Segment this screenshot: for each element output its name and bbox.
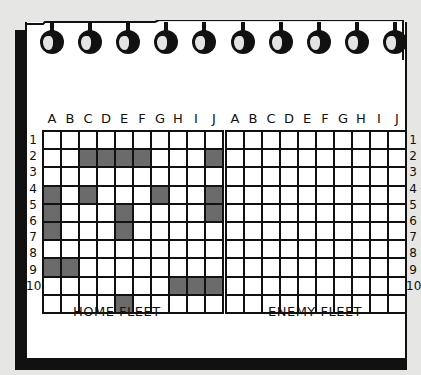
grid-cell-i4[interactable] bbox=[371, 187, 387, 203]
grid-cell-f8[interactable] bbox=[317, 259, 333, 275]
grid-cell-d6[interactable] bbox=[281, 223, 297, 239]
grid-cell-g1[interactable] bbox=[152, 132, 168, 148]
grid-cell-d9[interactable] bbox=[281, 278, 297, 294]
grid-cell-f5[interactable] bbox=[317, 205, 333, 221]
grid-cell-d1[interactable] bbox=[281, 132, 297, 148]
grid-cell-h2[interactable] bbox=[353, 150, 369, 166]
grid-cell-e4[interactable] bbox=[299, 187, 315, 203]
grid-cell-c2[interactable] bbox=[263, 150, 279, 166]
grid-cell-j6[interactable] bbox=[206, 223, 222, 239]
grid-cell-i1[interactable] bbox=[188, 132, 204, 148]
grid-cell-a8[interactable] bbox=[227, 259, 243, 275]
grid-cell-e5[interactable] bbox=[299, 205, 315, 221]
grid-cell-a1[interactable] bbox=[44, 132, 60, 148]
grid-cell-d4[interactable] bbox=[98, 187, 114, 203]
ship-cell-f2[interactable] bbox=[134, 150, 150, 166]
grid-cell-g7[interactable] bbox=[335, 241, 351, 257]
grid-cell-e9[interactable] bbox=[299, 278, 315, 294]
grid-cell-g3[interactable] bbox=[152, 168, 168, 184]
grid-cell-f4[interactable] bbox=[317, 187, 333, 203]
grid-cell-d7[interactable] bbox=[98, 241, 114, 257]
grid-cell-a9[interactable] bbox=[44, 278, 60, 294]
grid-cell-b4[interactable] bbox=[62, 187, 78, 203]
grid-cell-i10[interactable] bbox=[188, 296, 204, 312]
grid-cell-j1[interactable] bbox=[389, 132, 405, 148]
grid-cell-h2[interactable] bbox=[170, 150, 186, 166]
grid-cell-f3[interactable] bbox=[317, 168, 333, 184]
grid-cell-h9[interactable] bbox=[353, 278, 369, 294]
grid-cell-h1[interactable] bbox=[353, 132, 369, 148]
ship-cell-a5[interactable] bbox=[44, 205, 60, 221]
grid-cell-b5[interactable] bbox=[245, 205, 261, 221]
grid-cell-i8[interactable] bbox=[188, 259, 204, 275]
grid-cell-i6[interactable] bbox=[371, 223, 387, 239]
grid-cell-i8[interactable] bbox=[371, 259, 387, 275]
grid-cell-j3[interactable] bbox=[206, 168, 222, 184]
grid-cell-g4[interactable] bbox=[335, 187, 351, 203]
grid-cell-j7[interactable] bbox=[206, 241, 222, 257]
grid-cell-b8[interactable] bbox=[245, 259, 261, 275]
grid-cell-d2[interactable] bbox=[281, 150, 297, 166]
grid-cell-g2[interactable] bbox=[152, 150, 168, 166]
grid-cell-c6[interactable] bbox=[80, 223, 96, 239]
grid-cell-g5[interactable] bbox=[152, 205, 168, 221]
grid-cell-f1[interactable] bbox=[317, 132, 333, 148]
grid-cell-j8[interactable] bbox=[389, 259, 405, 275]
grid-cell-b10[interactable] bbox=[245, 296, 261, 312]
grid-cell-i7[interactable] bbox=[188, 241, 204, 257]
grid-cell-h8[interactable] bbox=[170, 259, 186, 275]
grid-cell-c9[interactable] bbox=[80, 278, 96, 294]
grid-cell-h8[interactable] bbox=[353, 259, 369, 275]
grid-cell-h1[interactable] bbox=[170, 132, 186, 148]
grid-cell-h6[interactable] bbox=[170, 223, 186, 239]
ship-cell-h9[interactable] bbox=[170, 278, 186, 294]
ship-cell-j5[interactable] bbox=[206, 205, 222, 221]
grid-cell-e6[interactable] bbox=[299, 223, 315, 239]
grid-cell-c5[interactable] bbox=[263, 205, 279, 221]
grid-cell-h7[interactable] bbox=[353, 241, 369, 257]
grid-cell-b4[interactable] bbox=[245, 187, 261, 203]
grid-cell-f7[interactable] bbox=[317, 241, 333, 257]
grid-cell-a10[interactable] bbox=[44, 296, 60, 312]
ship-cell-j4[interactable] bbox=[206, 187, 222, 203]
grid-cell-c8[interactable] bbox=[263, 259, 279, 275]
grid-cell-f3[interactable] bbox=[134, 168, 150, 184]
grid-cell-f4[interactable] bbox=[134, 187, 150, 203]
grid-cell-j10[interactable] bbox=[206, 296, 222, 312]
grid-cell-a3[interactable] bbox=[44, 168, 60, 184]
grid-cell-f2[interactable] bbox=[317, 150, 333, 166]
grid-cell-f9[interactable] bbox=[317, 278, 333, 294]
grid-cell-h7[interactable] bbox=[170, 241, 186, 257]
grid-cell-c7[interactable] bbox=[263, 241, 279, 257]
grid-cell-f1[interactable] bbox=[134, 132, 150, 148]
grid-cell-b1[interactable] bbox=[245, 132, 261, 148]
grid-cell-i5[interactable] bbox=[188, 205, 204, 221]
grid-cell-c3[interactable] bbox=[263, 168, 279, 184]
grid-cell-i10[interactable] bbox=[371, 296, 387, 312]
grid-cell-f7[interactable] bbox=[134, 241, 150, 257]
grid-cell-j4[interactable] bbox=[389, 187, 405, 203]
grid-cell-a6[interactable] bbox=[227, 223, 243, 239]
grid-cell-g1[interactable] bbox=[335, 132, 351, 148]
grid-cell-i2[interactable] bbox=[188, 150, 204, 166]
grid-cell-f6[interactable] bbox=[134, 223, 150, 239]
grid-cell-j3[interactable] bbox=[389, 168, 405, 184]
grid-cell-h4[interactable] bbox=[353, 187, 369, 203]
grid-cell-a3[interactable] bbox=[227, 168, 243, 184]
grid-cell-c1[interactable] bbox=[263, 132, 279, 148]
grid-cell-h5[interactable] bbox=[353, 205, 369, 221]
grid-cell-d9[interactable] bbox=[98, 278, 114, 294]
grid-cell-a4[interactable] bbox=[227, 187, 243, 203]
grid-cell-j10[interactable] bbox=[389, 296, 405, 312]
grid-cell-j7[interactable] bbox=[389, 241, 405, 257]
grid-cell-j5[interactable] bbox=[389, 205, 405, 221]
grid-cell-d3[interactable] bbox=[281, 168, 297, 184]
grid-cell-c3[interactable] bbox=[80, 168, 96, 184]
ship-cell-g4[interactable] bbox=[152, 187, 168, 203]
grid-cell-c4[interactable] bbox=[263, 187, 279, 203]
grid-cell-c1[interactable] bbox=[80, 132, 96, 148]
grid-cell-g5[interactable] bbox=[335, 205, 351, 221]
grid-cell-c9[interactable] bbox=[263, 278, 279, 294]
ship-cell-e5[interactable] bbox=[116, 205, 132, 221]
grid-cell-g6[interactable] bbox=[152, 223, 168, 239]
